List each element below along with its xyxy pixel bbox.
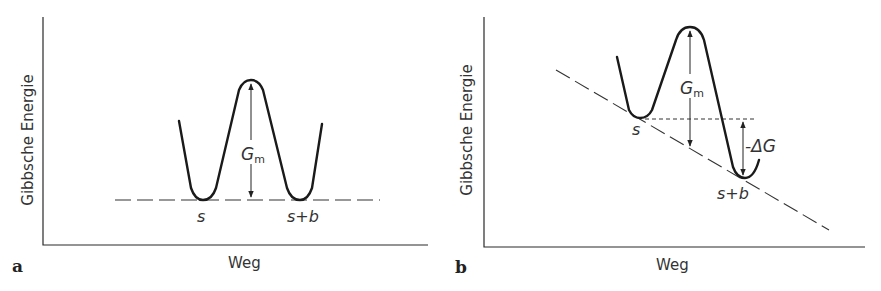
- panel-a: Gm s s+b Weg Gibbsche Energie a: [12, 17, 428, 276]
- panel-b-x-axis-label: Weg: [656, 256, 689, 274]
- figure: Gm s s+b Weg Gibbsche Energie a Gm -ΔG s…: [0, 0, 881, 291]
- panel-a-y-axis-label: Gibbsche Energie: [19, 74, 37, 205]
- panel-b-label: b: [455, 257, 467, 277]
- panel-a-state-s: s: [197, 207, 205, 226]
- panel-b-y-axis-label: Gibbsche Energie: [458, 64, 476, 195]
- panel-a-x-axis-label: Weg: [228, 254, 261, 272]
- panel-a-axes: [43, 17, 428, 245]
- panel-b-state-s: s: [632, 120, 640, 139]
- panel-b-state-sb: s+b: [717, 184, 749, 203]
- panel-b-axes: [484, 17, 865, 247]
- panel-b-energy-curve: [617, 27, 759, 178]
- panel-b-delta-g-label: -ΔG: [745, 136, 776, 156]
- panel-a-label: a: [12, 256, 23, 276]
- panel-b: Gm -ΔG s s+b Weg Gibbsche Energie b: [455, 17, 865, 277]
- panel-a-state-sb: s+b: [287, 207, 319, 226]
